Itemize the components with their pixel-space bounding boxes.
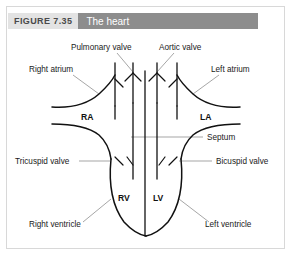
bicuspid-flap-outer [169,157,177,165]
figure-header: FIGURE 7.35 The heart [8,13,258,29]
figure-number-badge: FIGURE 7.35 [8,13,78,29]
bicuspid-flap-inner [159,157,165,165]
label-bicuspid-valve: Bicuspid valve [216,157,269,166]
tricuspid-flap-outer [115,157,123,165]
aortic-valve-flap-left [149,73,157,81]
label-left-ventricle: Left ventricle [205,220,252,229]
label-lv: LV [153,193,164,203]
tricuspid-flap-inner [127,157,133,165]
leader-left-ventricle [179,199,209,222]
left-ventricle-wall [146,159,182,236]
pulmonary-vein-flap [169,79,177,87]
label-la: LA [200,112,211,122]
leader-pulmonary-valve [117,53,133,72]
leader-left-atrium [193,75,219,94]
left-atrium-wall [177,75,240,107]
figure-title: The heart [78,13,258,29]
label-pulmonary-valve: Pulmonary valve [71,43,132,52]
heart-diagram-svg: Pulmonary valve Aortic valve Right atriu… [7,31,284,248]
label-aortic-valve: Aortic valve [159,43,202,52]
aortic-valve-flap-right [157,73,165,81]
right-atrium-wall [52,75,115,107]
label-right-atrium: Right atrium [29,65,73,74]
figure-card: FIGURE 7.35 The heart [6,6,285,249]
right-atrium-lower-wall [52,124,111,159]
heart-diagram: Pulmonary valve Aortic valve Right atriu… [7,31,284,248]
leader-aortic-valve [157,53,174,72]
label-right-ventricle: Right ventricle [29,220,81,229]
label-rv: RV [118,193,130,203]
vena-cava-flap [115,79,123,87]
leader-right-ventricle [83,199,111,222]
pulmonary-valve-flap-left [125,73,133,81]
label-septum: Septum [207,133,235,142]
leader-right-atrium [73,75,99,94]
pulmonary-valve-flap-right [133,73,141,81]
label-left-atrium: Left atrium [211,65,250,74]
label-ra: RA [81,112,93,122]
label-tricuspid-valve: Tricuspid valve [15,157,70,166]
